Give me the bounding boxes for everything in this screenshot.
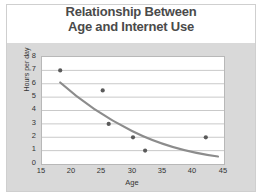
trend-line [60, 83, 218, 157]
y-tick-label-6: 6 [22, 79, 36, 87]
y-tick-label-0: 0 [22, 159, 36, 167]
x-tick-label-35: 35 [151, 167, 173, 175]
y-tick-label-5: 5 [22, 92, 36, 100]
x-tick-label-40: 40 [181, 167, 203, 175]
data-point [143, 149, 147, 153]
x-tick-label-30: 30 [121, 167, 143, 175]
data-point [58, 68, 62, 72]
data-point [101, 88, 105, 92]
chart-title-line-2: Age and Internet Use [7, 19, 255, 34]
plot-area [41, 56, 225, 165]
y-tick-label-3: 3 [22, 119, 36, 127]
x-axis-title: Age [41, 178, 223, 187]
chart-title: Relationship Between Age and Internet Us… [7, 4, 255, 34]
chart-title-line-1: Relationship Between [7, 4, 255, 19]
x-tick-label-45: 45 [212, 167, 234, 175]
x-tick-label-15: 15 [30, 167, 52, 175]
y-tick-label-1: 1 [22, 145, 36, 153]
x-tick-label-25: 25 [90, 167, 112, 175]
data-point [204, 135, 208, 139]
data-point [107, 122, 111, 126]
x-tick-label-20: 20 [60, 167, 82, 175]
y-tick-label-7: 7 [22, 65, 36, 73]
data-point [131, 135, 135, 139]
y-tick-label-4: 4 [22, 105, 36, 113]
plot-graphics [42, 57, 224, 164]
y-tick-label-2: 2 [22, 132, 36, 140]
y-tick-label-8: 8 [22, 52, 36, 60]
chart-container: Relationship Between Age and Internet Us… [0, 0, 262, 196]
